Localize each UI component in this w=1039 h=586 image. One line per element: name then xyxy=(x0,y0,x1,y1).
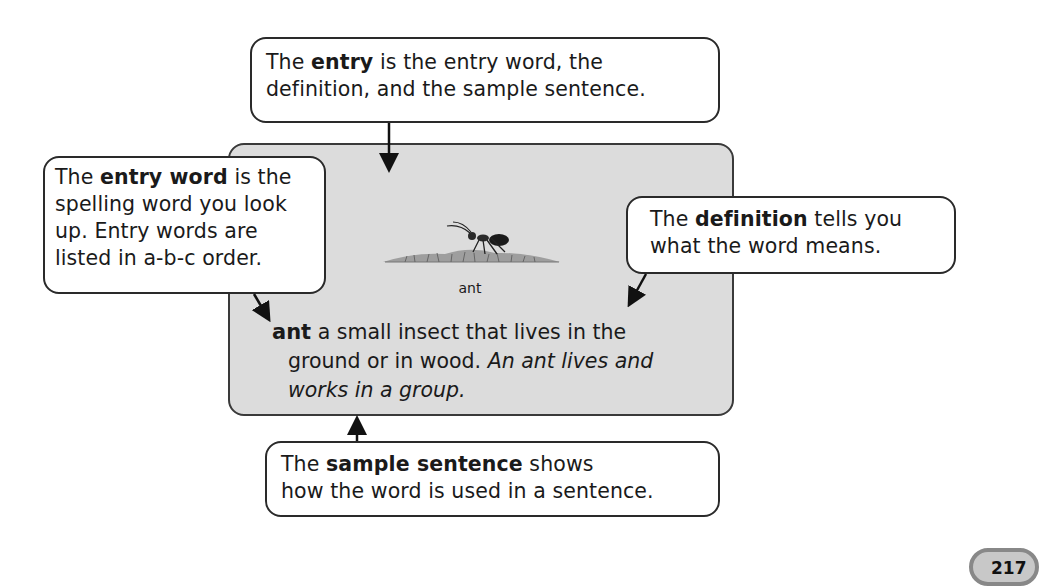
arrow-entry-word xyxy=(254,294,268,318)
page-number-badge: 217 xyxy=(969,548,1039,586)
arrow-definition xyxy=(630,274,646,303)
